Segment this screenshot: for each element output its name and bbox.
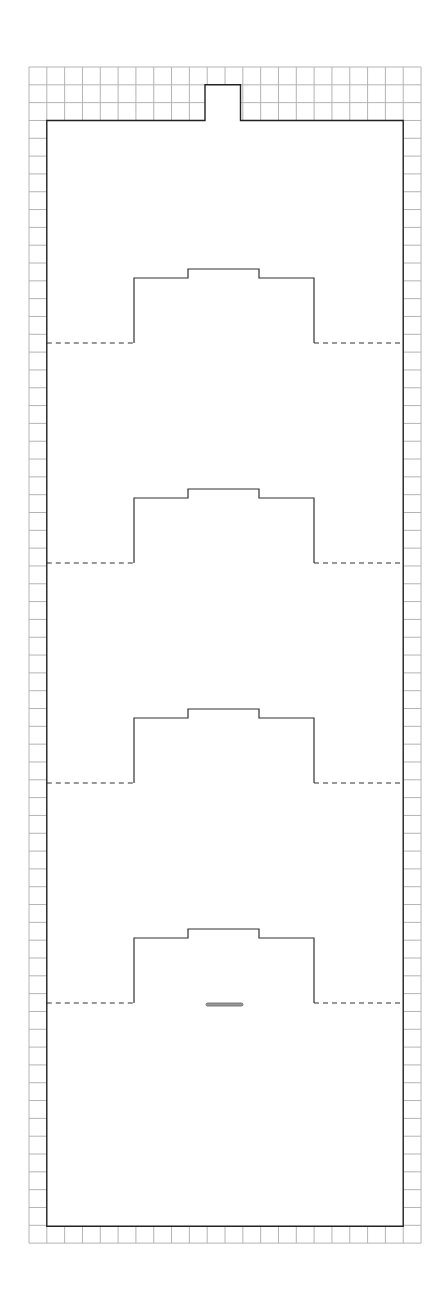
board-interior (47, 85, 403, 1226)
marker-bar (206, 1003, 243, 1006)
board-outline (47, 85, 403, 1226)
grid-diagram (0, 0, 437, 1304)
marker-bar-rect (206, 1003, 243, 1006)
